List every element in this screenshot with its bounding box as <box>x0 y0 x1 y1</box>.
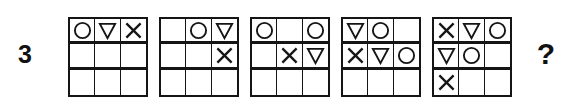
grid-3-cell-r3c2 <box>277 70 302 95</box>
triangle-down-outline-icon <box>371 46 390 65</box>
grid-3-cell-r2c2 <box>277 44 302 69</box>
triangle-down-outline-icon <box>462 21 481 40</box>
grid-1-cell-r2c3 <box>121 44 146 69</box>
grid-4-cell-r1c2 <box>368 19 393 44</box>
circle-outline-icon <box>73 21 92 40</box>
grid-5-cell-r2c1 <box>434 44 459 69</box>
grid-5-cell-r2c3 <box>485 44 510 69</box>
cross-x-icon <box>437 73 456 92</box>
grid-2-cell-r2c1 <box>161 44 186 69</box>
grid-2-cell-r2c3 <box>212 44 237 69</box>
triangle-down-outline-icon <box>346 21 365 40</box>
grid-4-cell-r3c3 <box>394 70 419 95</box>
grid-2-cell-r1c3 <box>212 19 237 44</box>
grid-4-cell-r2c2 <box>368 44 393 69</box>
grid-5 <box>432 17 512 97</box>
grid-2-cell-r2c2 <box>186 44 211 69</box>
grid-1-cell-r1c1 <box>70 19 95 44</box>
grid-2-cell-r3c3 <box>212 70 237 95</box>
cross-x-icon <box>346 46 365 65</box>
grid-3-cell-r2c1 <box>252 44 277 69</box>
grid-5-cell-r2c2 <box>459 44 484 69</box>
grid-4-cell-r1c1 <box>343 19 368 44</box>
grid-1-cell-r1c3 <box>121 19 146 44</box>
cross-x-icon <box>437 21 456 40</box>
grid-3-cell-r1c2 <box>277 19 302 44</box>
grid-4-cell-r2c1 <box>343 44 368 69</box>
grid-sequence <box>68 17 512 97</box>
triangle-down-outline-icon <box>98 21 117 40</box>
grid-2-cell-r1c2 <box>186 19 211 44</box>
grid-3-cell-r3c3 <box>303 70 328 95</box>
cross-x-icon <box>215 46 234 65</box>
circle-outline-icon <box>397 46 416 65</box>
grid-4-cell-r1c3 <box>394 19 419 44</box>
grid-5-cell-r3c3 <box>485 70 510 95</box>
grid-1-cell-r1c2 <box>95 19 120 44</box>
circle-outline-icon <box>255 21 274 40</box>
grid-1-cell-r3c1 <box>70 70 95 95</box>
triangle-down-outline-icon <box>437 46 456 65</box>
grid-4-cell-r3c1 <box>343 70 368 95</box>
grid-5-cell-r1c2 <box>459 19 484 44</box>
grid-3-cell-r3c1 <box>252 70 277 95</box>
grid-5-cell-r3c1 <box>434 70 459 95</box>
grid-5-cell-r3c2 <box>459 70 484 95</box>
grid-3-cell-r1c3 <box>303 19 328 44</box>
grid-2-cell-r1c1 <box>161 19 186 44</box>
circle-outline-icon <box>462 46 481 65</box>
grid-1-cell-r3c2 <box>95 70 120 95</box>
grid-1-cell-r2c1 <box>70 44 95 69</box>
grid-4-cell-r3c2 <box>368 70 393 95</box>
cross-x-icon <box>124 21 143 40</box>
circle-outline-icon <box>306 21 325 40</box>
item-number: 3 <box>18 42 32 67</box>
triangle-down-outline-icon <box>306 46 325 65</box>
grid-1-cell-r2c2 <box>95 44 120 69</box>
circle-outline-icon <box>371 21 390 40</box>
grid-2 <box>159 17 239 97</box>
grid-1-cell-r3c3 <box>121 70 146 95</box>
cross-x-icon <box>280 46 299 65</box>
triangle-down-outline-icon <box>215 21 234 40</box>
circle-outline-icon <box>189 21 208 40</box>
puzzle-row: 3 ? <box>0 0 571 108</box>
grid-5-cell-r1c1 <box>434 19 459 44</box>
answer-question-mark: ? <box>537 39 555 69</box>
grid-4-cell-r2c3 <box>394 44 419 69</box>
grid-2-cell-r3c2 <box>186 70 211 95</box>
circle-outline-icon <box>488 21 507 40</box>
grid-5-cell-r1c3 <box>485 19 510 44</box>
grid-3-cell-r2c3 <box>303 44 328 69</box>
grid-3 <box>250 17 330 97</box>
grid-4 <box>341 17 421 97</box>
grid-1 <box>68 17 148 97</box>
grid-2-cell-r3c1 <box>161 70 186 95</box>
grid-3-cell-r1c1 <box>252 19 277 44</box>
